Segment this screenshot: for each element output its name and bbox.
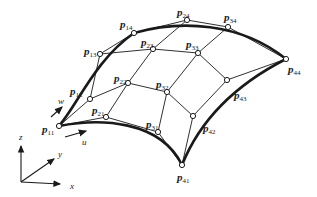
param-u-arrow: u: [65, 131, 87, 147]
net-edge-p41-p42: [182, 116, 193, 165]
bezier-surface-diagram: p11p12p13p14p21p22p23p24p31p32p33p34p41p…: [0, 0, 317, 197]
label-p11: p11: [41, 123, 55, 137]
control-point-p44: [283, 56, 288, 61]
net-edge-p33-p34: [198, 27, 228, 53]
control-point-p34: [225, 24, 230, 29]
coordinate-axes: [21, 146, 60, 184]
label-p34: p34: [223, 11, 237, 25]
surface-boundaries: [59, 26, 286, 165]
control-point-p42: [190, 113, 195, 118]
w-label: w: [58, 96, 64, 106]
net-edge-p22-p23: [128, 49, 153, 83]
label-p44: p44: [287, 63, 301, 77]
control-point-p13: [97, 51, 102, 56]
control-point-p11: [56, 123, 61, 128]
diagram-svg: p11p12p13p14p21p22p23p24p31p32p33p34p41p…: [0, 0, 317, 197]
control-point-p12: [87, 96, 92, 101]
net-edge-p32-p33: [167, 53, 198, 92]
control-point-p41: [179, 162, 184, 167]
control-point-p43: [224, 77, 229, 82]
label-p31: p31: [145, 118, 159, 132]
label-p43: p43: [233, 89, 247, 103]
label-p32: p32: [155, 78, 169, 92]
net-edge-p31-p32: [158, 92, 167, 132]
u-label: u: [82, 137, 87, 147]
label-p14: p14: [119, 18, 133, 32]
x-axis: [21, 182, 60, 184]
z-axis-label: z: [18, 132, 23, 142]
label-p12: p12: [69, 85, 83, 99]
y-axis-label: y: [57, 149, 62, 159]
boundary-u1: [182, 59, 286, 165]
label-p24: p24: [176, 6, 190, 20]
net-edge-p13-p23: [100, 49, 153, 54]
label-p41: p41: [176, 171, 190, 185]
label-p22: p22: [113, 72, 127, 86]
label-p13: p13: [83, 45, 97, 59]
label-p21: p21: [91, 104, 105, 118]
net-edge-p42-p43: [193, 80, 227, 116]
boundary-w0: [59, 122, 182, 165]
param-w-arrow: w: [51, 96, 64, 117]
x-axis-label: x: [69, 181, 74, 191]
net-edge-p33-p43: [198, 53, 227, 80]
label-p23: p23: [140, 36, 154, 50]
control-net: [59, 20, 286, 165]
label-p33: p33: [185, 38, 199, 52]
net-edge-p34-p44: [228, 27, 286, 59]
net-edge-p32-p42: [167, 92, 193, 116]
label-p42: p42: [202, 122, 216, 136]
net-edge-p31-p41: [158, 132, 182, 165]
y-axis: [21, 159, 54, 182]
